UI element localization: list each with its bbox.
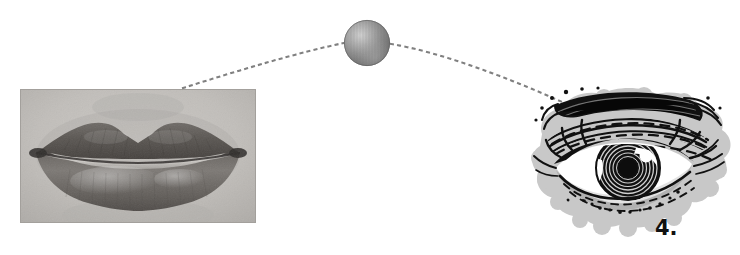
eye-illustration-svg — [524, 84, 736, 242]
eye-illustration — [524, 84, 736, 242]
eye-pupil — [619, 159, 637, 177]
figure-number-label: 4. — [655, 218, 678, 239]
sphere — [343, 19, 391, 67]
sphere-svg — [343, 19, 391, 67]
figure-container: 4. — [0, 0, 740, 255]
arc-segment-left — [183, 43, 344, 88]
